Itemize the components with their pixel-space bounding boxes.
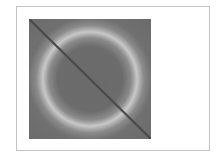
diagonal-line [29,19,151,139]
ring-image [29,19,151,139]
